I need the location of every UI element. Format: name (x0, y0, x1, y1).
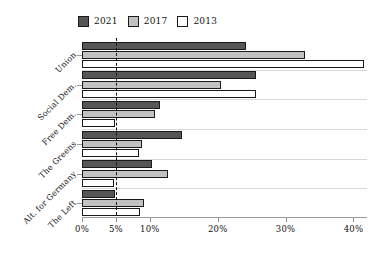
bar-2017-free-dem (82, 110, 155, 118)
y-axis-label-alt-for-germany: Alt. for Germany (19, 169, 78, 228)
legend-label-2017: 2017 (144, 17, 168, 26)
x-axis-line (82, 217, 367, 218)
bar-2013-free-dem (82, 119, 115, 127)
x-axis-label-40: 40% (344, 224, 364, 234)
x-axis-label-10: 10% (140, 224, 160, 234)
bar-2013-social-dem (82, 90, 256, 98)
legend-label-2021: 2021 (94, 17, 118, 26)
bar-2021-social-dem (82, 71, 256, 79)
x-axis-tick (218, 218, 219, 222)
bar-2021-free-dem (82, 101, 160, 109)
x-axis-tick (82, 218, 83, 222)
x-axis-label-0: 0% (75, 224, 89, 234)
chart-legend: 2021 2017 2013 (78, 14, 217, 28)
y-axis-label-the-greens: The Greens (19, 139, 78, 198)
five-percent-threshold-line (116, 38, 117, 220)
x-axis-label-5: 5% (109, 224, 123, 234)
bar-2021-the-greens (82, 131, 182, 139)
y-axis-label-union: Union (19, 50, 78, 109)
x-axis-tick (150, 218, 151, 222)
bar-2017-alt-for-germany (82, 170, 168, 178)
legend-swatch-2017 (128, 16, 139, 27)
x-axis-tick (286, 218, 287, 222)
y-axis-label-social-dem: Social Dem. (19, 80, 78, 139)
bar-2017-social-dem (82, 81, 221, 89)
x-axis-tick (353, 218, 354, 222)
gridline (82, 188, 367, 189)
bar-2013-the-greens (82, 149, 139, 157)
bar-2021-the-left (82, 190, 115, 198)
bar-2021-union (82, 42, 246, 50)
bar-2013-the-left (82, 208, 140, 216)
legend-item-2017: 2017 (128, 16, 168, 27)
x-axis-tick (116, 218, 117, 222)
plot-area (82, 40, 367, 218)
legend-item-2013: 2013 (177, 16, 217, 27)
bar-2013-alt-for-germany (82, 179, 114, 187)
x-axis-label-30: 30% (276, 224, 296, 234)
election-bar-chart: 2021 2017 2013 UnionSocial Dem.Free Dem.… (0, 0, 390, 256)
y-axis-label-the-left: The Left (19, 198, 78, 256)
legend-item-2021: 2021 (78, 16, 118, 27)
bar-2013-union (82, 60, 364, 68)
x-axis-label-20: 20% (208, 224, 228, 234)
legend-label-2013: 2013 (193, 17, 217, 26)
bar-2021-alt-for-germany (82, 160, 152, 168)
legend-swatch-2021 (78, 16, 89, 27)
y-axis-label-free-dem: Free Dem. (19, 109, 78, 168)
bar-2017-the-greens (82, 140, 142, 148)
bar-2017-the-left (82, 199, 144, 207)
legend-swatch-2013 (177, 16, 188, 27)
